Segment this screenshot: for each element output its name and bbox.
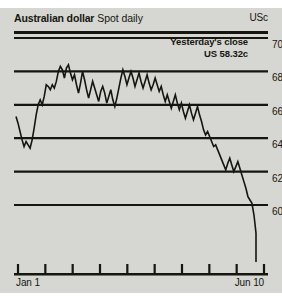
y-tick-label-66: 66: [272, 106, 282, 117]
y-tick-label-64: 64: [272, 139, 282, 150]
y-tick-label-70: 70: [272, 39, 282, 50]
series-title: Australian dollar: [14, 12, 94, 24]
y-tick-label-60: 60: [272, 206, 282, 217]
x-tick-label-0: Jan 1: [16, 277, 40, 288]
price-line-plot: [14, 34, 268, 262]
price-line: [16, 65, 256, 262]
y-tick-label-62: 62: [272, 173, 282, 184]
gridlines: [14, 38, 268, 205]
x-axis: [14, 262, 268, 276]
series-subtitle: Spot daily: [97, 12, 143, 24]
chart-header: Australian dollar Spot daily USc: [14, 12, 268, 28]
plot-area: 706866646260: [14, 34, 268, 238]
chart-title: Australian dollar Spot daily: [14, 12, 143, 24]
y-tick-label-68: 68: [272, 72, 282, 83]
y-axis-unit-label: USc: [249, 12, 268, 23]
x-tick-label-1: Jun 10: [235, 277, 264, 288]
x-axis-ticks: [14, 262, 268, 276]
australian-dollar-chart: Australian dollar Spot daily USc Yesterd…: [0, 0, 282, 301]
